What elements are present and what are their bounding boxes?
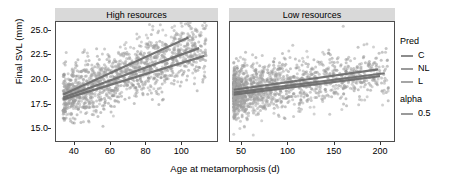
legend: Pred CNLL alpha 0.5 xyxy=(400,36,458,126)
x-axis-tick-mark xyxy=(380,142,381,145)
x-axis-title: Age at metamorphosis (d) xyxy=(55,163,395,174)
x-axis-tick-mark xyxy=(287,142,288,145)
y-axis-tick-mark xyxy=(48,104,51,105)
legend-item-label: L xyxy=(418,77,423,86)
legend-key-swatch-icon xyxy=(400,49,414,62)
facet-strip-low-resources: Low resources xyxy=(229,8,395,21)
x-axis-tick-label: 80 xyxy=(125,146,165,156)
y-axis-tick-label: 17.5 xyxy=(14,99,48,109)
x-axis-tick-label: 60 xyxy=(90,146,130,156)
y-axis-tick-mark xyxy=(48,54,51,55)
chart-figure: Final SVL (mm) 15.017.520.022.525.0 High… xyxy=(0,0,458,185)
legend-item-pred-c[interactable]: C xyxy=(400,49,458,62)
x-axis-tick-label: 150 xyxy=(314,146,354,156)
legend-item-pred-l[interactable]: L xyxy=(400,75,458,88)
x-axis-tick-mark xyxy=(334,142,335,145)
x-axis-tick-label: 200 xyxy=(360,146,400,156)
scatter-panel-low-resources xyxy=(229,21,395,142)
x-axis-tick-mark xyxy=(145,142,146,145)
legend-group-alpha: alpha 0.5 xyxy=(400,94,458,120)
facet-strip-high-resources: High resources xyxy=(55,8,218,21)
legend-item-pred-nl[interactable]: NL xyxy=(400,62,458,75)
legend-group-pred: Pred CNLL xyxy=(400,36,458,88)
y-axis-tick-label: 20.0 xyxy=(14,74,48,84)
x-axis-tick-mark xyxy=(241,142,242,145)
legend-item-alpha-0.5[interactable]: 0.5 xyxy=(400,107,458,120)
y-axis-tick-mark xyxy=(48,30,51,31)
x-axis-tick-mark xyxy=(181,142,182,145)
y-axis-tick-label: 25.0 xyxy=(14,25,48,35)
y-axis-tick-mark xyxy=(48,128,51,129)
x-axis-tick-mark xyxy=(74,142,75,145)
y-axis-tick-label: 22.5 xyxy=(14,49,48,59)
x-axis-tick-mark xyxy=(110,142,111,145)
legend-key-swatch-icon xyxy=(400,107,414,120)
facet-strip-label: High resources xyxy=(106,10,167,20)
legend-item-label: 0.5 xyxy=(418,109,431,118)
legend-title-pred: Pred xyxy=(400,36,458,46)
x-axis-tick-label: 100 xyxy=(267,146,307,156)
x-axis-tick-label: 50 xyxy=(221,146,261,156)
y-axis-tick-mark xyxy=(48,79,51,80)
legend-key-swatch-icon xyxy=(400,62,414,75)
legend-title-alpha: alpha xyxy=(400,94,458,104)
legend-item-label: C xyxy=(418,51,425,60)
x-axis-tick-label: 40 xyxy=(54,146,94,156)
y-axis: 15.017.520.022.525.0 xyxy=(6,0,48,185)
facet-strip-label: Low resources xyxy=(283,10,342,20)
legend-key-swatch-icon xyxy=(400,75,414,88)
y-axis-tick-label: 15.0 xyxy=(14,123,48,133)
x-axis-tick-label: 100 xyxy=(161,146,201,156)
scatter-plot-area xyxy=(230,22,394,141)
legend-item-label: NL xyxy=(418,64,430,73)
data-points xyxy=(232,25,390,137)
scatter-panel-high-resources xyxy=(55,21,218,142)
scatter-plot-area xyxy=(56,22,217,141)
